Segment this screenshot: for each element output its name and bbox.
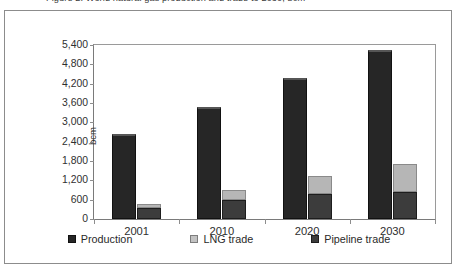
bar-segment-lng-trade [137, 204, 161, 209]
bar-trade-stack [393, 164, 417, 219]
bar-production [197, 107, 221, 219]
x-axis-tick-mark [94, 219, 95, 224]
y-axis-tick-mark [90, 45, 94, 46]
chart-legend: ProductionLNG tradePipeline trade [5, 233, 453, 245]
legend-swatch-icon [311, 235, 319, 243]
bar-segment-pipeline-trade [308, 194, 332, 219]
y-axis-tick-mark [90, 161, 94, 162]
bar-segment-pipeline-trade [137, 208, 161, 219]
bar-trade-stack [137, 204, 161, 219]
legend-swatch-icon [190, 235, 198, 243]
legend-label: LNG trade [203, 233, 253, 245]
x-axis-tick-mark [179, 219, 180, 224]
figure-caption-strip: Figure 2. World natural gas production a… [0, 0, 457, 10]
y-axis-tick-mark [90, 122, 94, 123]
legend-label: Production [81, 233, 133, 245]
legend-item: LNG trade [190, 233, 253, 245]
bar-segment-pipeline-trade [222, 200, 246, 219]
bar-segment-lng-trade [393, 164, 417, 192]
bar-segment-lng-trade [308, 176, 332, 193]
bar-production [283, 78, 307, 219]
y-axis-tick-mark [90, 84, 94, 85]
figure-frame: bcm 06001,2001,8002,4003,0003,6004,2004,… [4, 10, 452, 264]
legend-item: Production [68, 233, 133, 245]
y-axis-tick-mark [90, 180, 94, 181]
y-axis-tick-mark [90, 64, 94, 65]
bar-trade-stack [308, 176, 332, 219]
legend-label: Pipeline trade [324, 233, 390, 245]
y-axis-tick-mark [90, 200, 94, 201]
legend-swatch-icon [68, 235, 76, 243]
chart-plot-area: bcm 06001,2001,8002,4003,0003,6004,2004,… [93, 44, 436, 220]
legend-item: Pipeline trade [311, 233, 390, 245]
bar-segment-pipeline-trade [393, 192, 417, 219]
x-axis-tick-mark [350, 219, 351, 224]
x-axis-tick-mark [435, 219, 436, 224]
bar-trade-stack [222, 190, 246, 219]
bar-production [368, 50, 392, 219]
y-axis-tick-mark [90, 103, 94, 104]
bar-production [112, 134, 136, 219]
figure-caption: Figure 2. World natural gas production a… [46, 0, 305, 3]
x-axis-tick-mark [265, 219, 266, 224]
bar-segment-lng-trade [222, 190, 246, 200]
y-axis-tick-mark [90, 142, 94, 143]
